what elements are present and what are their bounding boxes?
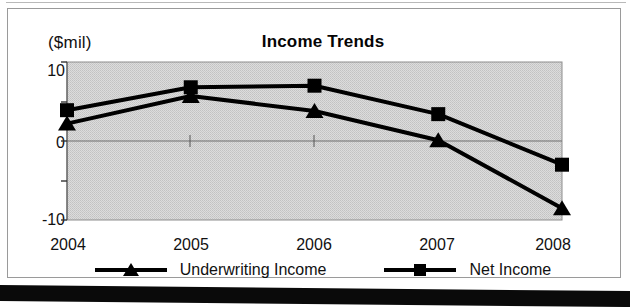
data-point-square	[308, 79, 322, 93]
data-point-square	[60, 103, 74, 117]
data-point-square	[184, 80, 198, 94]
data-point-square	[431, 107, 445, 121]
data-point-square	[555, 158, 569, 172]
